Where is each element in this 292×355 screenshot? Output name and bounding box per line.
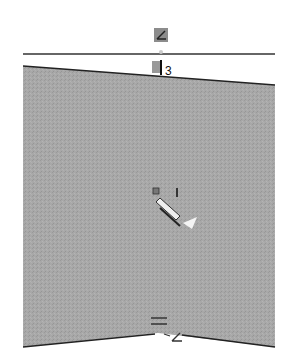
constraint-label: 3 (165, 64, 172, 78)
shaded-face[interactable] (23, 66, 275, 347)
sketch-canvas[interactable]: 3 1 (0, 0, 292, 355)
vertical-constraint-icon[interactable] (152, 60, 162, 75)
angle-constraint-icon[interactable] (154, 28, 168, 42)
midpoint-icon (159, 50, 163, 54)
